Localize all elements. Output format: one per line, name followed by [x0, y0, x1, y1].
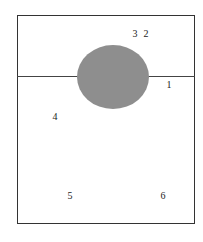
label-4: 4 — [53, 112, 58, 122]
label-2: 2 — [144, 29, 149, 39]
label-5: 5 — [68, 191, 73, 201]
gray-ellipse — [77, 45, 149, 109]
label-1: 1 — [167, 80, 172, 90]
label-6: 6 — [161, 191, 166, 201]
label-3: 3 — [133, 29, 138, 39]
